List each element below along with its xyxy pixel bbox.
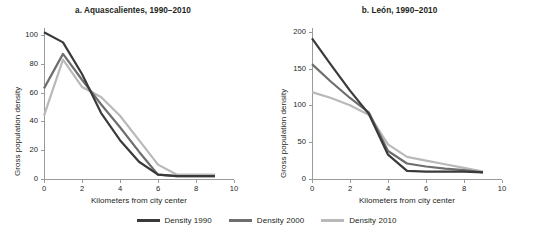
panel-b-series-group [312, 28, 502, 181]
panel-a-x-axis-label: Kilometers from city center [44, 196, 234, 205]
legend-label: Density 2000 [257, 216, 304, 225]
legend-label: Density 1990 [165, 216, 212, 225]
panel-a-ytick-label: 40 [10, 116, 38, 125]
panel-a-xtick-label: 8 [186, 184, 206, 193]
panel-b-x-axis-label: Kilometers from city center [312, 196, 502, 205]
legend-line-swatch-icon [137, 219, 160, 222]
cropped-caption-text [8, 0, 528, 2]
panel-a-ytick-label: 80 [10, 59, 38, 68]
chart-panel-a: a. Aquascalientes, 1990–2010 Gross popul… [0, 6, 266, 206]
panel-b-title: b. León, 1990–2010 [266, 6, 533, 15]
panel-a-xtick-label: 0 [34, 184, 54, 193]
panel-a-y-axis-label: Gross population density [13, 87, 22, 176]
panel-a-series-group [44, 28, 234, 181]
panel-a-xtick-label: 2 [72, 184, 92, 193]
panel-b-line-density-2000 [312, 64, 483, 172]
panel-a-xtick [234, 180, 235, 183]
panel-a-line-density-2010 [44, 60, 215, 175]
panel-b-line-density-1990 [312, 38, 483, 172]
panel-a-line-density-2000 [44, 54, 215, 176]
panel-a-xtick-label: 10 [224, 184, 244, 193]
panel-b-xtick-label: 10 [492, 184, 512, 193]
panel-b-xtick-label: 0 [302, 184, 322, 193]
legend-item-density-1990: Density 1990 [137, 216, 212, 225]
chart-legend: Density 1990Density 2000Density 2010 [0, 216, 533, 225]
panel-a-xtick-label: 6 [148, 184, 168, 193]
panel-b-xtick-label: 4 [378, 184, 398, 193]
legend-item-density-2000: Density 2000 [229, 216, 304, 225]
panel-b-plot-area: 0246810050100150200 [312, 28, 502, 179]
chart-panel-b: b. León, 1990–2010 Gross population dens… [266, 6, 533, 206]
panel-b-ytick-label: 150 [278, 64, 306, 73]
legend-item-density-2010: Density 2010 [321, 216, 396, 225]
legend-line-swatch-icon [229, 219, 252, 222]
panel-a-ytick-label: 60 [10, 88, 38, 97]
panel-a-line-density-1990 [44, 32, 215, 176]
panel-a-ytick-label: 20 [10, 145, 38, 154]
panel-a-ytick-label: 0 [10, 174, 38, 183]
panel-a-plot-area: 0246810020406080100 [44, 28, 234, 179]
panel-a-xtick-label: 4 [110, 184, 130, 193]
panel-b-xtick-label: 2 [340, 184, 360, 193]
panel-b-ytick-label: 50 [278, 137, 306, 146]
panel-b-line-density-2010 [312, 92, 483, 172]
panel-b-xtick-label: 8 [454, 184, 474, 193]
panel-b-xtick-label: 6 [416, 184, 436, 193]
legend-line-swatch-icon [321, 219, 344, 222]
panel-a-title: a. Aquascalientes, 1990–2010 [0, 6, 266, 15]
panel-b-ytick-label: 0 [278, 174, 306, 183]
figure-two-panel-density-chart: a. Aquascalientes, 1990–2010 Gross popul… [0, 0, 533, 238]
panel-b-xtick [502, 180, 503, 183]
legend-label: Density 2010 [349, 216, 396, 225]
panel-a-ytick-label: 100 [10, 30, 38, 39]
panel-b-ytick-label: 200 [278, 27, 306, 36]
panel-b-ytick-label: 100 [278, 100, 306, 109]
